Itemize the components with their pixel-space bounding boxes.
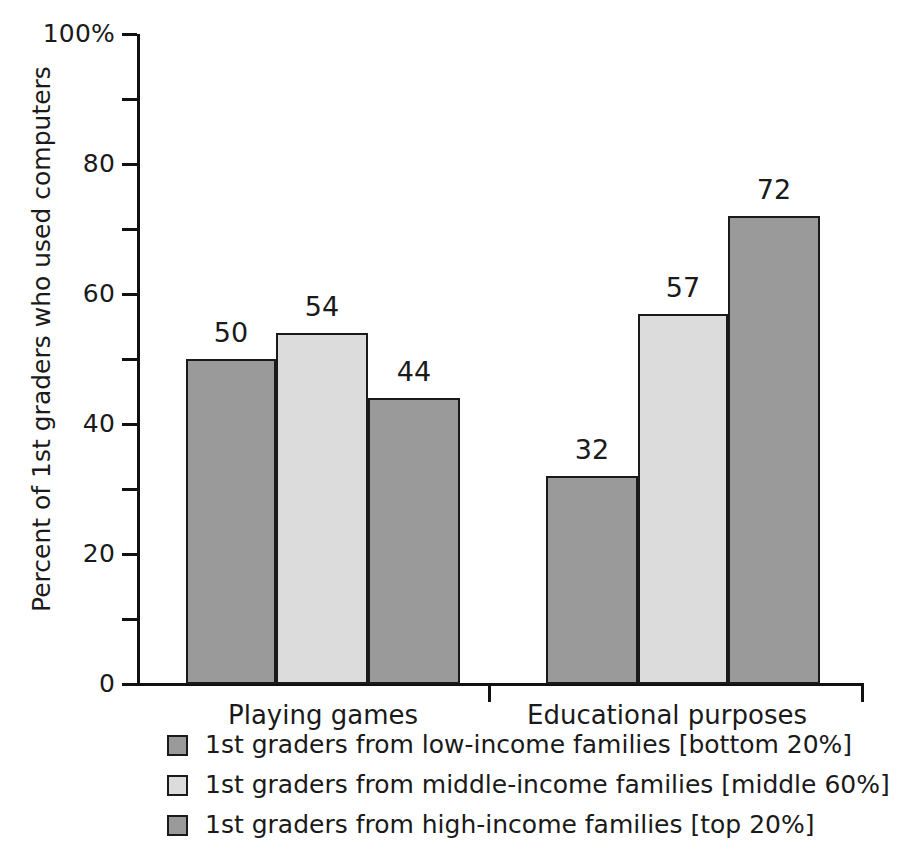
legend-swatch-icon [167,815,188,836]
chart-legend: 1st graders from low-income families [bo… [167,727,867,847]
bar-playing-high-value-label: 44 [368,358,460,385]
bar-chart: 020406080100% Percent of 1st graders who… [0,0,918,856]
bar-educational-middle [638,314,728,685]
y-tick-minor [122,618,137,621]
y-tick-major [122,683,137,686]
legend-label: 1st graders from low-income families [bo… [205,731,852,759]
x-axis-separator-tick [861,686,864,702]
bar-playing-middle [276,333,368,684]
x-category-label: Educational purposes [487,700,847,730]
bar-educational-middle-value-label: 57 [638,274,728,301]
y-tick-major [122,553,137,556]
x-category-label: Playing games [143,700,503,730]
legend-item-0: 1st graders from low-income families [bo… [167,727,867,763]
bar-playing-low-value-label: 50 [186,319,276,346]
y-tick-minor [122,228,137,231]
plot-area: 505444325772 [137,34,862,684]
bar-educational-low-value-label: 32 [546,436,638,463]
legend-label: 1st graders from high-income families [t… [205,811,814,839]
bar-playing-middle-value-label: 54 [276,293,368,320]
y-tick-minor [122,98,137,101]
y-tick-major [122,163,137,166]
legend-item-1: 1st graders from middle-income families … [167,767,867,803]
legend-swatch-icon [167,775,188,796]
bar-educational-high [728,216,820,684]
legend-item-2: 1st graders from high-income families [t… [167,807,867,843]
y-tick-label: 0 [0,671,115,696]
bar-educational-high-value-label: 72 [728,176,820,203]
y-axis-title: Percent of 1st graders who used computer… [28,92,56,612]
y-tick-major [122,293,137,296]
y-tick-label: 100% [0,21,115,46]
y-tick-major [122,33,137,36]
y-tick-label: 40 [0,411,115,436]
y-tick-label: 20 [0,541,115,566]
legend-swatch-icon [167,735,188,756]
bar-playing-low [186,359,276,684]
y-tick-label: 80 [0,151,115,176]
y-tick-major [122,423,137,426]
bar-educational-low [546,476,638,684]
y-tick-minor [122,488,137,491]
y-tick-minor [122,358,137,361]
bar-playing-high [368,398,460,684]
y-tick-label: 60 [0,281,115,306]
legend-label: 1st graders from middle-income families … [205,771,890,799]
